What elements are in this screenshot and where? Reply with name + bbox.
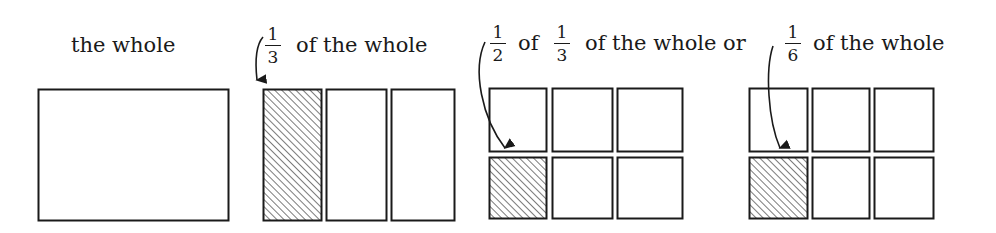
sixths-figure-a <box>490 89 683 219</box>
sixth-part <box>490 89 547 152</box>
sixth-part <box>813 89 870 152</box>
arrow-sixth-icon <box>769 46 780 148</box>
sixth-part <box>618 89 683 152</box>
sixth-part <box>875 89 934 152</box>
label-half-of-third: of the whole or <box>585 33 746 54</box>
fraction-one-half: 1 2 <box>490 24 506 64</box>
label-of: of <box>518 33 538 54</box>
sixth-part <box>553 89 613 152</box>
sixth-shaded <box>490 158 547 219</box>
thirds-figure <box>264 90 455 221</box>
sixth-part <box>875 158 934 219</box>
sixth-part <box>813 158 870 219</box>
label-third: of the whole <box>296 35 427 56</box>
third-part <box>392 90 455 221</box>
sixth-part <box>618 158 683 219</box>
sixth-shaded <box>750 158 808 219</box>
third-shaded <box>264 90 322 221</box>
fraction-one-sixth: 1 6 <box>785 24 801 64</box>
sixth-part <box>553 158 613 219</box>
label-whole: the whole <box>71 35 175 56</box>
third-part <box>327 90 387 221</box>
label-sixth: of the whole <box>813 33 944 54</box>
sixths-figure-b <box>750 89 934 219</box>
arrow-third-icon <box>256 37 263 80</box>
fraction-one-third: 1 3 <box>265 26 281 66</box>
fraction-one-third-b: 1 3 <box>554 24 570 64</box>
whole-rectangle <box>39 90 229 221</box>
